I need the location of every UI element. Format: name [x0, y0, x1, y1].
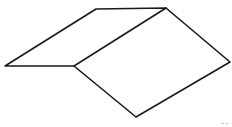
left-face — [5, 8, 166, 66]
right-face — [74, 8, 230, 117]
left-face-outline — [5, 8, 166, 66]
right-face-outline — [74, 8, 230, 117]
folded-planes-diagram — [0, 0, 232, 127]
scan-specks — [222, 123, 228, 124]
